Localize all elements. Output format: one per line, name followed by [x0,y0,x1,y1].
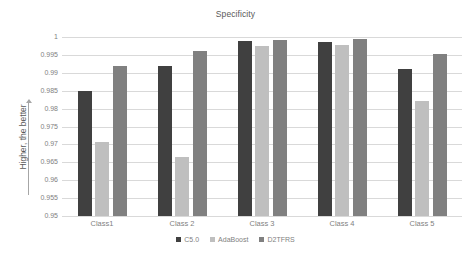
y-axis-tick-label: 0.96 [4,176,58,183]
y-axis-tick-label: 0.955 [4,194,58,201]
x-axis-tick-label: Class 2 [142,219,222,228]
y-axis-tick-label: 0.99 [4,69,58,76]
bar-d2tfrs-class-5[interactable] [433,54,447,216]
bar-adaboost-class-3[interactable] [255,46,269,216]
gridline [62,216,462,217]
x-axis-tick-labels: Class1Class 2Class 3Class 4Class 5 [62,219,462,233]
x-axis-tick-label: Class1 [62,219,142,228]
legend-swatch-icon [210,237,215,242]
bar-c5-0-class-3[interactable] [238,41,252,216]
y-axis-tick-labels: 10.9950.990.9850.980.9750.970.9650.960.9… [0,37,58,216]
legend: C5.0AdaBoostD2TFRS [0,236,471,243]
bar-c5-0-class-4[interactable] [318,42,332,216]
bar-d2tfrs-class-4[interactable] [353,39,367,216]
y-axis-tick-label: 0.98 [4,105,58,112]
legend-label: D2TFRS [267,236,294,243]
bar-group [382,37,462,216]
legend-label: C5.0 [184,236,199,243]
legend-swatch-icon [176,237,181,242]
x-axis-tick-label: Class 3 [222,219,302,228]
legend-item-adaboost[interactable]: AdaBoost [210,236,248,243]
bar-group [302,37,382,216]
y-axis-tick-label: 0.97 [4,140,58,147]
bar-d2tfrs-class-2[interactable] [193,51,207,216]
bar-d2tfrs-class-3[interactable] [273,40,287,216]
y-axis-tick-label: 0.985 [4,87,58,94]
y-axis-tick-label: 1 [4,33,58,40]
y-axis-tick-label: 0.95 [4,212,58,219]
bar-adaboost-class-5[interactable] [415,101,429,216]
plot-area [62,37,462,216]
legend-label: AdaBoost [218,236,248,243]
x-axis-tick-label: Class 5 [382,219,462,228]
legend-item-d2tfrs[interactable]: D2TFRS [259,236,294,243]
y-axis-tick-label: 0.995 [4,51,58,58]
x-axis-tick-label: Class 4 [302,219,382,228]
y-axis-tick-label: 0.965 [4,158,58,165]
bar-c5-0-class-2[interactable] [158,66,172,216]
bar-c5-0-class-5[interactable] [398,69,412,216]
bar-group [222,37,302,216]
bar-c5-0-class1[interactable] [78,91,92,216]
bar-adaboost-class1[interactable] [95,142,109,216]
legend-swatch-icon [259,237,264,242]
bar-group [142,37,222,216]
bar-group [62,37,142,216]
bar-d2tfrs-class1[interactable] [113,66,127,216]
chart-title: Specificity [0,9,471,19]
specificity-bar-chart: Specificity Higher, the better 10.9950.9… [0,0,471,256]
legend-item-c5-0[interactable]: C5.0 [176,236,199,243]
y-axis-tick-label: 0.975 [4,123,58,130]
bar-adaboost-class-4[interactable] [335,45,349,216]
bar-adaboost-class-2[interactable] [175,157,189,216]
